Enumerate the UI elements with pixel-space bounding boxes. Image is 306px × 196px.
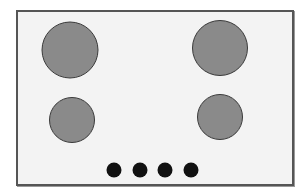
control-knob-4[interactable] (184, 163, 199, 178)
burner-bottom-left (49, 97, 95, 143)
control-knob-3[interactable] (158, 163, 173, 178)
cooktop-diagram (0, 0, 306, 196)
control-knob-2[interactable] (133, 163, 148, 178)
burner-top-left (42, 22, 99, 79)
burner-bottom-right (197, 94, 243, 140)
control-knob-1[interactable] (107, 163, 122, 178)
burner-top-right (192, 20, 248, 76)
